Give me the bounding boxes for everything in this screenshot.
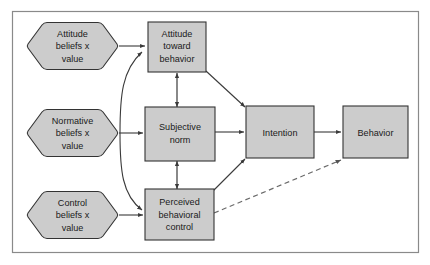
node-label-attitude-beliefs-1: Attitude: [57, 29, 88, 39]
node-label-subjective-norm-1: Subjective: [159, 122, 201, 132]
node-label-attitude-toward-behavior-3: behavior: [160, 54, 195, 64]
node-label-intention: Intention: [263, 128, 298, 138]
node-label-subjective-norm-2: norm: [170, 135, 191, 145]
node-normative-beliefs: Normative beliefs x value: [27, 110, 118, 157]
node-behavior: Behavior: [343, 106, 408, 158]
node-label-attitude-beliefs-3: value: [62, 54, 84, 64]
node-label-normative-beliefs-3: value: [62, 141, 84, 151]
node-subjective-norm: Subjective norm: [145, 107, 215, 161]
node-label-attitude-toward-behavior-1: Attitude: [162, 29, 193, 39]
node-label-normative-beliefs-2: beliefs x: [56, 128, 90, 138]
tpb-diagram: Attitude beliefs x value Normative belie…: [0, 0, 430, 265]
diagram-canvas: Attitude beliefs x value Normative belie…: [0, 0, 430, 265]
node-intention: Intention: [246, 106, 314, 158]
node-label-pbc-2: behavioral: [159, 210, 201, 220]
node-label-attitude-toward-behavior-2: toward: [163, 41, 190, 51]
node-attitude-beliefs: Attitude beliefs x value: [27, 23, 118, 70]
node-perceived-behavioral-control: Perceived behavioral control: [145, 189, 214, 240]
node-control-beliefs: Control beliefs x value: [27, 192, 118, 239]
node-label-control-beliefs-2: beliefs x: [56, 210, 90, 220]
node-label-behavior: Behavior: [358, 128, 394, 138]
node-label-control-beliefs-3: value: [62, 223, 84, 233]
node-label-control-beliefs-1: Control: [58, 198, 87, 208]
node-label-attitude-beliefs-2: beliefs x: [56, 41, 90, 51]
node-label-pbc-1: Perceived: [159, 197, 199, 207]
node-label-normative-beliefs-1: Normative: [52, 116, 93, 126]
node-attitude-toward-behavior: Attitude toward behavior: [148, 22, 206, 72]
node-label-pbc-3: control: [166, 222, 193, 232]
